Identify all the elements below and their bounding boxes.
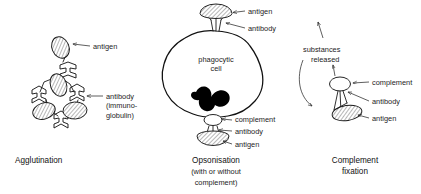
- caption-complement-fixation: Complement: [332, 156, 379, 165]
- released-line2: released: [311, 55, 339, 64]
- diagram-canvas: antigen antibody (immuno- globulin) Aggl…: [0, 0, 421, 194]
- label-complement: complement: [372, 78, 412, 87]
- antigen-dome: [331, 103, 363, 123]
- nucleus: [191, 87, 230, 112]
- label-antibody-bottom: antibody: [235, 127, 263, 136]
- caption-agglutination: Agglutination: [15, 156, 63, 165]
- leader-antigen: [73, 44, 90, 46]
- label-antibody: antibody: [106, 92, 134, 101]
- cell-label-line2: cell: [210, 64, 221, 73]
- label-complement-bottom: complement: [235, 115, 275, 124]
- antibody-fork: [70, 84, 84, 101]
- label-antigen: antigen: [372, 114, 396, 123]
- label-antibody: antibody: [372, 97, 400, 106]
- label-antibody-top: antibody: [248, 24, 276, 33]
- antibody-fork: [32, 86, 46, 103]
- antigen-ellipse: [62, 101, 87, 120]
- complement-oval: [330, 77, 351, 91]
- antigen-dome-bottom: [197, 131, 229, 146]
- label-antigen: antigen: [93, 42, 117, 51]
- panel-agglutination: antigen antibody (immuno- globulin) Aggl…: [15, 34, 138, 165]
- panel-opsonisation: phagocytic cell antigen antibody complem…: [162, 4, 276, 187]
- caption-opsonisation-line2: (with or without: [191, 167, 241, 176]
- leader-antigen: [358, 115, 369, 118]
- leader-antibody-bottom: [219, 130, 232, 131]
- leader-antibody-top: [226, 23, 245, 28]
- antibody-fork: [60, 62, 76, 78]
- leader-complement: [222, 119, 232, 120]
- complement-oval: [204, 115, 222, 126]
- label-antigen-top: antigen: [248, 7, 272, 16]
- released-line1: substances: [303, 45, 341, 54]
- leader-antigen-top: [233, 11, 245, 13]
- label-antibody-line2: (immuno-: [106, 101, 138, 110]
- release-arrow-up: [318, 22, 323, 38]
- leader-complement: [353, 82, 369, 83]
- curved-arrow: [299, 60, 312, 106]
- leader-antibody: [348, 92, 369, 101]
- release-arrow-short: [333, 65, 335, 76]
- caption-opsonisation: Opsonisation: [192, 156, 240, 165]
- immunology-diagram: antigen antibody (immuno- globulin) Aggl…: [0, 0, 421, 194]
- label-antigen-bottom: antigen: [235, 140, 259, 149]
- label-antibody-line3: globulin): [106, 111, 134, 120]
- antigen-cap-top: [200, 4, 232, 19]
- caption-opsonisation-line3: complement): [195, 178, 238, 187]
- cell-label-line1: phagocytic: [198, 55, 234, 64]
- panel-complement-fixation: substances released complement antibody …: [299, 22, 412, 176]
- antigen-ellipse: [48, 34, 72, 61]
- caption-complement-fixation-line2: fixation: [342, 167, 368, 176]
- antigen-ellipse: [31, 100, 58, 122]
